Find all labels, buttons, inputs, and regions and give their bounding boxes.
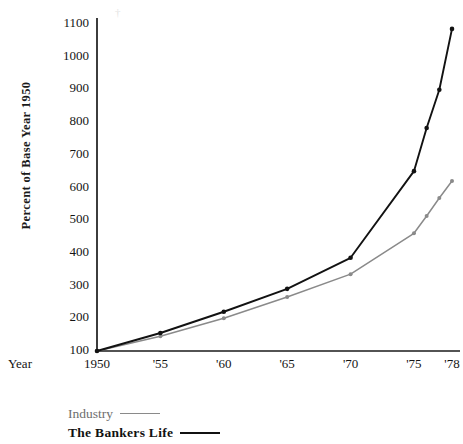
data-point bbox=[450, 27, 455, 32]
series-line-the-bankers-life bbox=[97, 29, 452, 351]
data-point bbox=[285, 295, 289, 299]
series-line-industry bbox=[97, 181, 452, 351]
legend-label-industry: Industry bbox=[68, 406, 113, 422]
plot-area bbox=[0, 0, 463, 444]
data-point bbox=[349, 272, 353, 276]
data-point bbox=[285, 287, 290, 292]
legend-item-bankers-life: The Bankers Life bbox=[68, 423, 398, 442]
data-point bbox=[412, 169, 417, 174]
data-point bbox=[425, 214, 429, 218]
data-point bbox=[158, 331, 163, 336]
data-point bbox=[437, 196, 441, 200]
data-point bbox=[412, 231, 416, 235]
legend-item-industry: Industry bbox=[68, 404, 398, 423]
legend-label-bankers-life: The Bankers Life bbox=[68, 425, 173, 441]
legend-swatch-industry bbox=[120, 413, 160, 414]
axis-lines bbox=[97, 18, 460, 351]
data-point bbox=[221, 309, 226, 314]
line-chart: † Percent of Base Year 1950 100200300400… bbox=[0, 0, 463, 444]
legend-swatch-bankers-life bbox=[180, 432, 220, 434]
series-lines bbox=[95, 27, 455, 354]
data-point bbox=[95, 349, 100, 354]
data-point bbox=[437, 87, 442, 92]
data-point bbox=[222, 316, 226, 320]
chart-legend: Industry The Bankers Life bbox=[68, 404, 398, 442]
data-point bbox=[424, 126, 429, 131]
data-point bbox=[348, 256, 353, 261]
data-point bbox=[450, 179, 454, 183]
